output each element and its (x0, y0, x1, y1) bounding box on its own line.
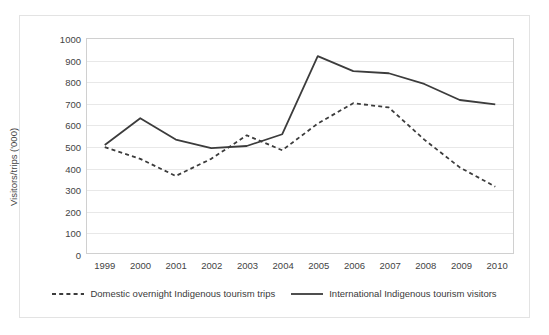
y-axis-tick-label: 0 (76, 250, 81, 261)
y-axis-tick-label: 700 (65, 98, 81, 109)
series-container (87, 39, 513, 253)
x-axis-tick-label: 1999 (94, 260, 115, 271)
legend-dashed-line-icon (52, 288, 84, 299)
chart-figure: Visitors/trips ('000) 100090080070060050… (19, 15, 530, 318)
series-line-0 (105, 103, 496, 186)
y-axis-tick-label: 200 (65, 206, 81, 217)
y-axis-tick-label: 800 (65, 77, 81, 88)
y-axis-tick-label: 1000 (60, 34, 81, 45)
x-axis-tick-label: 2004 (273, 260, 294, 271)
y-axis-tick-label: 100 (65, 228, 81, 239)
y-axis-tick-label: 500 (65, 142, 81, 153)
series-line-1 (105, 56, 496, 148)
legend-entry[interactable]: Domestic overnight Indigenous tourism tr… (52, 288, 275, 299)
x-axis-tick-label: 2005 (308, 260, 329, 271)
y-axis-title: Visitors/trips ('000) (8, 127, 19, 205)
x-axis-tick-label: 2006 (344, 260, 365, 271)
y-axis-tick-label: 300 (65, 185, 81, 196)
y-axis-tick-label: 600 (65, 120, 81, 131)
x-axis-tick-label: 2010 (487, 260, 508, 271)
legend-entry[interactable]: International Indigenous tourism visitor… (291, 288, 496, 299)
y-axis-tick-label: 900 (65, 55, 81, 66)
x-axis-tick-label: 2002 (201, 260, 222, 271)
legend-label: International Indigenous tourism visitor… (329, 288, 496, 299)
x-axis-tick-label: 2009 (451, 260, 472, 271)
chart-legend: Domestic overnight Indigenous tourism tr… (20, 288, 529, 299)
x-axis-tick-label: 2007 (380, 260, 401, 271)
x-axis-tick-label: 2008 (415, 260, 436, 271)
legend-label: Domestic overnight Indigenous tourism tr… (90, 288, 275, 299)
x-axis-tick-label: 2000 (130, 260, 151, 271)
x-axis-tick-label: 2001 (166, 260, 187, 271)
y-axis-tick-label: 400 (65, 163, 81, 174)
legend-solid-line-icon (291, 288, 323, 299)
plot-area: 1000900800700600500400300200100019992000… (86, 38, 514, 254)
x-axis-tick-label: 2003 (237, 260, 258, 271)
